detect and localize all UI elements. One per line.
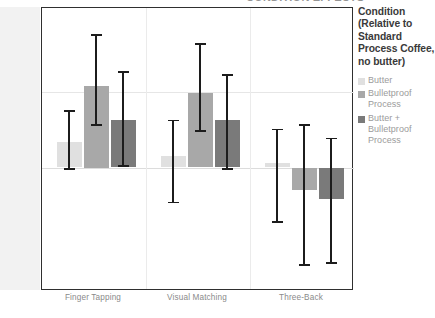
chart-screenshot: CONDITION EFFECTS Finger TappingVisual M… — [0, 0, 435, 318]
error-bar-line — [172, 120, 174, 202]
vertical-gridline-2 — [250, 8, 251, 289]
x-axis-label-finger-tapping: Finger Tapping — [41, 293, 145, 304]
error-bar-line — [276, 130, 278, 223]
error-bar-line — [226, 75, 228, 169]
error-bar-cap-upper — [272, 129, 283, 131]
error-bar-cap-lower — [272, 221, 283, 223]
x-axis-labels: Finger TappingVisual MatchingThree-Back — [41, 293, 353, 318]
error-bar-cap-upper — [91, 34, 102, 36]
legend-item-label: Butter + Bulletproof Process — [368, 113, 435, 147]
legend-title: Condition (Relative to Standard Process … — [358, 6, 435, 68]
vertical-gridline-1 — [146, 8, 147, 289]
legend-item[interactable]: Bulletproof Process — [358, 88, 435, 110]
error-bar-cap-lower — [326, 262, 337, 264]
error-bar-cap-lower — [299, 264, 310, 266]
legend: Condition (Relative to Standard Process … — [358, 6, 435, 148]
error-bar-line — [95, 35, 97, 125]
error-bar-cap-upper — [195, 43, 206, 45]
left-margin-strip — [0, 7, 40, 290]
error-bar-cap-upper — [326, 138, 337, 140]
legend-items: ButterBulletproof ProcessButter + Bullet… — [358, 75, 435, 146]
plot-area — [41, 7, 353, 290]
x-axis-label-three-back: Three-Back — [249, 293, 353, 304]
error-bar-cap-lower — [64, 168, 75, 170]
error-bar-cap-lower — [91, 124, 102, 126]
error-bar-cap-upper — [168, 120, 179, 122]
x-axis-label-visual-matching: Visual Matching — [145, 293, 249, 304]
legend-swatch-icon — [358, 78, 365, 85]
legend-item-label: Bulletproof Process — [368, 88, 435, 110]
error-bar-line — [303, 125, 305, 265]
legend-item[interactable]: Butter + Bulletproof Process — [358, 113, 435, 147]
legend-swatch-icon — [358, 116, 365, 123]
error-bar-line — [122, 72, 124, 166]
cutoff-heading-text: CONDITION EFFECTS — [246, 0, 364, 3]
error-bar-cap-lower — [222, 168, 233, 170]
error-bar-cap-lower — [195, 130, 206, 132]
error-bar-line — [68, 111, 70, 169]
legend-item[interactable]: Butter — [358, 75, 435, 86]
error-bar-cap-upper — [222, 74, 233, 76]
legend-swatch-icon — [358, 91, 365, 98]
error-bar-cap-lower — [168, 202, 179, 204]
error-bar-cap-upper — [64, 110, 75, 112]
error-bar-cap-upper — [118, 71, 129, 73]
legend-item-label: Butter — [368, 75, 392, 86]
error-bar-line — [199, 44, 201, 131]
error-bar-cap-upper — [299, 124, 310, 126]
error-bar-line — [330, 139, 332, 264]
error-bar-cap-lower — [118, 165, 129, 167]
